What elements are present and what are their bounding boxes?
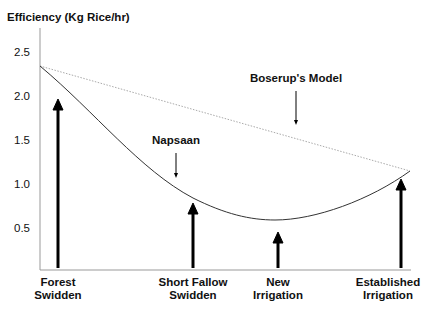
napsaan-curve (40, 66, 410, 220)
y-tick-labels: 0.5 1.0 1.5 2.0 2.5 (14, 46, 30, 234)
category-forest-line1: Forest (40, 276, 75, 288)
y-tick-2-0: 2.0 (14, 90, 30, 102)
y-tick-1-0: 1.0 (14, 178, 30, 190)
efficiency-chart: Efficiency (Kg Rice/hr) 0.5 1.0 1.5 2.0 … (0, 0, 433, 313)
y-tick-2-5: 2.5 (14, 46, 30, 58)
y-tick-1-5: 1.5 (14, 134, 30, 146)
category-short-fallow-line1: Short Fallow (159, 276, 228, 288)
napsaan-pointer-arrow (174, 173, 178, 178)
category-new-irrigation-line2: Irrigation (253, 289, 303, 301)
y-axis-title: Efficiency (Kg Rice/hr) (7, 11, 130, 23)
napsaan-label: Napsaan (152, 134, 200, 146)
boserup-model-line (40, 66, 410, 171)
boserup-model-label: Boserup's Model (250, 72, 342, 84)
category-established-line2: Irrigation (363, 289, 413, 301)
category-forest-line2: Swidden (34, 289, 81, 301)
category-new-irrigation-line1: New (266, 276, 290, 288)
x-category-labels: Forest Swidden Short Fallow Swidden New … (34, 276, 420, 301)
y-tick-0-5: 0.5 (14, 222, 30, 234)
boserup-pointer-arrow (294, 120, 298, 125)
category-short-fallow-line2: Swidden (169, 289, 216, 301)
category-arrows (53, 99, 406, 268)
category-established-line1: Established (356, 276, 421, 288)
